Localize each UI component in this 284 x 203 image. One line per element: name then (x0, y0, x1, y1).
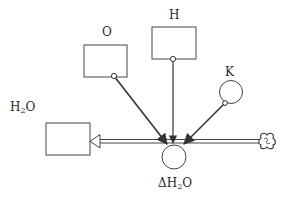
flow-valve[interactable] (162, 145, 186, 169)
link-origin-dot (170, 56, 175, 61)
link-h-to-valve (170, 56, 175, 143)
cloud-icon (259, 133, 276, 148)
label-delta-h2o: ΔH2O (158, 177, 192, 191)
link-origin-dot (111, 73, 116, 78)
label-delta-h2o-main: ΔH (158, 176, 177, 190)
label-h2o: H2O (10, 101, 35, 115)
label-h-text: H (169, 8, 179, 22)
link-o-to-valve (111, 73, 167, 144)
link-k-to-valve (184, 101, 227, 144)
label-k-text: K (225, 65, 234, 79)
stock-flow-diagram (0, 0, 284, 203)
aux-box-o[interactable] (84, 45, 127, 77)
label-k: K (225, 66, 234, 78)
aux-circle-k[interactable] (220, 81, 243, 104)
label-h: H (169, 9, 179, 21)
label-h2o-main: H (10, 100, 20, 114)
stock-box-h2o[interactable] (46, 123, 90, 155)
link-origin-dot (223, 101, 228, 106)
flow-arrowhead-icon (90, 135, 100, 149)
label-h2o-tail: O (26, 100, 36, 114)
label-o-text: O (102, 25, 112, 39)
aux-box-h[interactable] (152, 27, 196, 59)
label-delta-h2o-tail: O (182, 176, 192, 190)
label-o: O (102, 26, 112, 38)
